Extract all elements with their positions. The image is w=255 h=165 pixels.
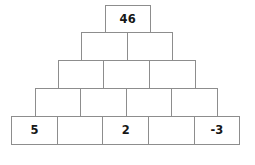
pyramid-cell[interactable] (58, 60, 105, 89)
pyramid-cell[interactable] (80, 88, 127, 117)
pyramid-row-3 (58, 60, 196, 89)
pyramid-cell[interactable] (149, 60, 196, 89)
pyramid-cell[interactable] (126, 88, 173, 117)
pyramid-cell[interactable] (57, 116, 104, 145)
pyramid-cell[interactable] (103, 60, 150, 89)
pyramid-row-2 (81, 32, 173, 61)
pyramid-row-4 (35, 88, 218, 117)
pyramid-cell[interactable]: -3 (194, 116, 241, 145)
pyramid-cell[interactable]: 46 (105, 5, 152, 34)
pyramid-cell[interactable]: 5 (11, 116, 58, 145)
pyramid-row-5: 5 2 -3 (11, 116, 240, 145)
pyramid-cell[interactable] (81, 32, 128, 61)
pyramid-row-1: 46 (105, 5, 152, 34)
pyramid-cell[interactable] (127, 32, 174, 61)
pyramid-cell[interactable]: 2 (102, 116, 149, 145)
pyramid-cell[interactable] (171, 88, 218, 117)
pyramid-cell[interactable] (35, 88, 82, 117)
pyramid-cell[interactable] (148, 116, 195, 145)
number-pyramid-figure: 46 5 2 -3 (0, 0, 255, 165)
